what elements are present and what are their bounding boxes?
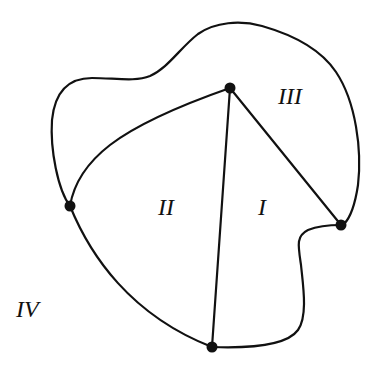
top-vertex [225,83,236,94]
planar-graph-diagram: III II I IV [0,0,373,371]
region-label-iii: III [277,83,303,109]
bottom-vertex [207,342,218,353]
right-vertex [336,220,347,231]
edge-left-right-outer [52,23,359,224]
edge-bottom-right [212,225,341,347]
region-label-i: I [257,194,267,220]
edge-top-left [70,88,230,206]
left-vertex [65,201,76,212]
region-label-iv: IV [15,296,41,322]
edge-top-bottom [212,88,230,347]
region-label-ii: II [157,194,175,220]
edge-left-bottom [70,206,212,347]
